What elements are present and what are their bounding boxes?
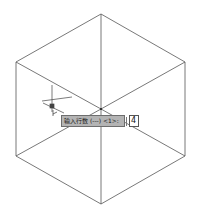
dynamic-input-field[interactable]: 4 [129, 115, 139, 127]
crosshair-cursor-icon [42, 85, 72, 116]
cube-edge-center-right [101, 62, 185, 109]
dynamic-input-prompt: 输入行数 (---) <1>: [61, 115, 125, 127]
drawing-canvas[interactable] [0, 0, 200, 215]
cube-edge-center-left [16, 62, 101, 109]
center-snap-marker [100, 108, 102, 110]
prompt-separator [126, 117, 127, 126]
